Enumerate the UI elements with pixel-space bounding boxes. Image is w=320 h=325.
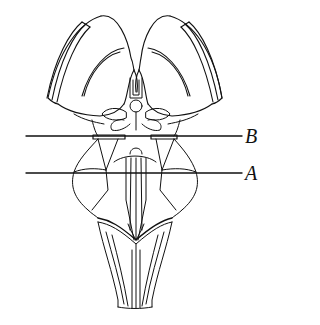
medulla [98,222,172,309]
right-hemisphere [136,16,222,116]
left-hemisphere [47,16,137,116]
section-label-b: B [245,126,257,146]
section-label-a: A [245,163,257,183]
pons-cerebellum [73,139,198,244]
